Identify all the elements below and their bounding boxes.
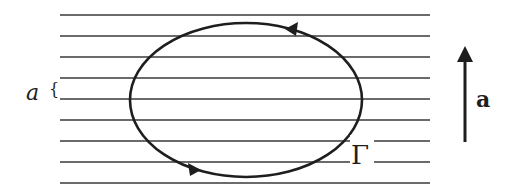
spacing-brace: { — [49, 80, 59, 99]
contour-arrowhead-top — [285, 22, 298, 36]
vector-a-arrowhead — [457, 46, 473, 62]
contour-gamma — [130, 23, 362, 177]
diagram-canvas: a { Γ a — [0, 0, 517, 194]
parallel-lines — [60, 15, 430, 183]
contour-arrowhead-bottom — [188, 163, 201, 176]
contour-label: Γ — [351, 140, 369, 170]
vector-label: a — [476, 86, 490, 112]
spacing-label: a — [26, 80, 39, 105]
